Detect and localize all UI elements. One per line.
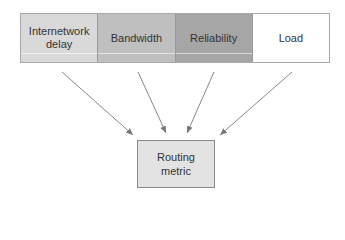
arrow-bandwidth: [138, 72, 166, 133]
arrow-reliability: [187, 72, 214, 133]
arrow-load: [220, 72, 292, 135]
arrow-delay: [62, 72, 133, 135]
routing-metric-box: Routing metric: [137, 140, 215, 188]
routing-metric-label: Routing metric: [151, 150, 201, 178]
